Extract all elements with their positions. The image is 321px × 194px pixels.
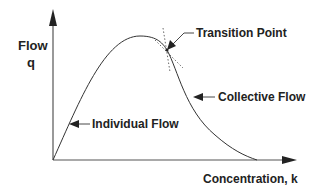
y-axis-symbol: q (27, 56, 35, 69)
transition-arrow-icon (167, 40, 176, 50)
collective-arrow-icon (193, 93, 203, 101)
transition-point-label: Transition Point (196, 27, 287, 39)
y-axis-label: Flow (18, 39, 48, 52)
y-axis-arrow-icon (49, 9, 57, 26)
collective-flow-label: Collective Flow (218, 91, 305, 103)
x-axis-arrow-icon (282, 156, 297, 164)
transition-point-marker (166, 49, 169, 52)
individual-flow-label: Individual Flow (92, 118, 179, 130)
x-axis-label: Concentration, k (203, 173, 298, 185)
transition-leader-diag (173, 33, 184, 44)
